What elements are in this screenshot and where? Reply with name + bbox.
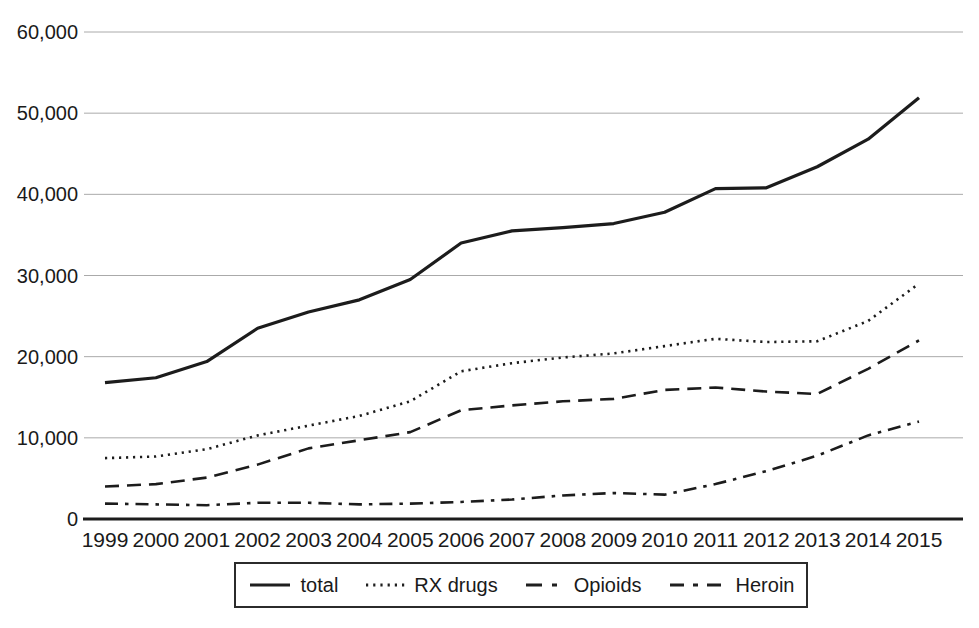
rx-drugs-line-swatch-icon (365, 579, 405, 591)
legend: total RX drugs Opioids Heroin (234, 562, 808, 608)
x-axis-tick-label: 2012 (743, 528, 790, 551)
opioids-line-swatch-icon (525, 579, 565, 591)
legend-label-rx-drugs: RX drugs (414, 574, 497, 597)
legend-label-heroin: Heroin (736, 574, 795, 597)
y-axis-tick-label: 30,000 (17, 265, 78, 287)
x-axis-tick-label: 2011 (693, 528, 738, 551)
x-axis-tick-label: 2009 (590, 528, 637, 551)
legend-item-heroin: Heroin (669, 574, 795, 597)
x-axis-tick-label: 2015 (896, 528, 943, 551)
y-axis-tick-label: 50,000 (17, 102, 78, 124)
x-axis-tick-label: 2010 (641, 528, 688, 551)
heroin-line-swatch-icon (669, 579, 727, 591)
x-axis-tick-label: 2006 (438, 528, 485, 551)
legend-label-opioids: Opioids (574, 574, 642, 597)
y-axis-tick-label: 20,000 (17, 346, 78, 368)
overdose-deaths-line-chart: 010,00020,00030,00040,00050,00060,000199… (0, 0, 979, 628)
legend-label-total: total (301, 574, 339, 597)
x-axis-tick-label: 2003 (285, 528, 332, 551)
x-axis-tick-label: 2004 (336, 528, 383, 551)
total-line-swatch-icon (248, 579, 292, 591)
x-axis-tick-label: 2007 (489, 528, 536, 551)
x-axis-tick-label: 2000 (133, 528, 180, 551)
legend-item-opioids: Opioids (525, 574, 642, 597)
x-axis-tick-label: 1999 (82, 528, 129, 551)
chart-figure: 010,00020,00030,00040,00050,00060,000199… (0, 0, 979, 628)
y-axis-tick-label: 40,000 (17, 183, 78, 205)
heroin-line (105, 422, 919, 506)
x-axis-tick-label: 2005 (387, 528, 434, 551)
y-axis-tick-label: 0 (67, 508, 78, 530)
opioids-line (105, 340, 919, 486)
legend-item-total: total (248, 574, 339, 597)
total-line (105, 98, 919, 383)
rx-drugs-line (105, 284, 919, 459)
y-axis-tick-label: 10,000 (17, 427, 78, 449)
legend-item-rx-drugs: RX drugs (365, 574, 497, 597)
x-axis-tick-label: 2008 (540, 528, 587, 551)
y-axis-tick-label: 60,000 (17, 21, 78, 43)
x-axis-tick-label: 2001 (183, 528, 230, 551)
x-axis-tick-label: 2014 (845, 528, 892, 551)
x-axis-tick-label: 2013 (794, 528, 841, 551)
x-axis-tick-label: 2002 (234, 528, 281, 551)
